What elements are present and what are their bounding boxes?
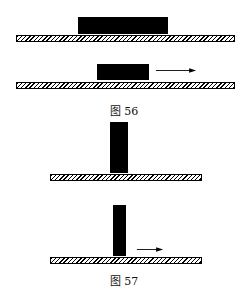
arrow-right-icon <box>135 246 165 253</box>
tall-block <box>110 122 128 173</box>
hatched-surface <box>50 257 202 264</box>
arrow-right-icon <box>153 67 199 74</box>
hatched-surface <box>16 82 235 89</box>
figure-caption: 图 57 <box>0 272 248 288</box>
tall-block-moving <box>113 205 126 256</box>
hatched-surface <box>50 174 202 181</box>
wide-block <box>78 17 168 34</box>
hatched-surface <box>16 35 235 42</box>
wide-block-moving <box>97 64 149 80</box>
figure-caption: 图 56 <box>0 102 248 118</box>
